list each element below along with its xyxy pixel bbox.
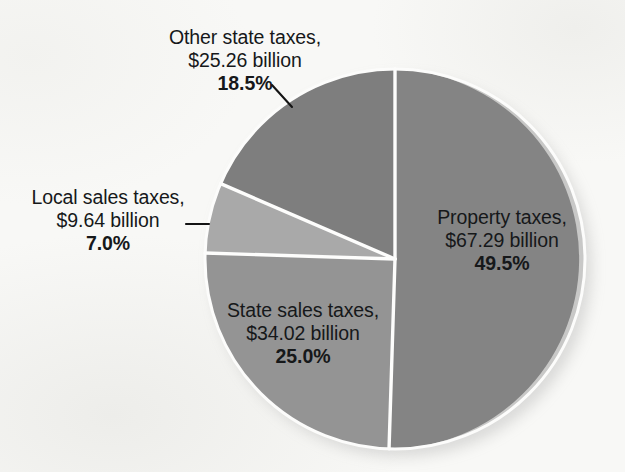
pie-label-property-taxes: Property taxes, $67.29 billion 49.5% — [412, 206, 592, 274]
label-line-2: $25.26 billion — [140, 49, 350, 72]
pie-label-other-state-taxes: Other state taxes, $25.26 billion 18.5% — [140, 26, 350, 94]
label-line-1: State sales taxes, — [205, 299, 401, 322]
pie-label-state-sales-taxes: State sales taxes, $34.02 billion 25.0% — [205, 299, 401, 367]
label-line-2: $9.64 billion — [18, 209, 198, 232]
label-line-1: Property taxes, — [412, 206, 592, 229]
label-percent: 7.0% — [18, 232, 198, 255]
label-percent: 25.0% — [205, 345, 401, 368]
label-percent: 18.5% — [140, 72, 350, 95]
label-percent: 49.5% — [412, 252, 592, 275]
label-line-1: Other state taxes, — [140, 26, 350, 49]
label-line-1: Local sales taxes, — [18, 186, 198, 209]
label-line-2: $34.02 billion — [205, 322, 401, 345]
pie-label-local-sales-taxes: Local sales taxes, $9.64 billion 7.0% — [18, 186, 198, 254]
label-line-2: $67.29 billion — [412, 229, 592, 252]
pie-chart: Other state taxes, $25.26 billion 18.5% … — [0, 0, 625, 472]
